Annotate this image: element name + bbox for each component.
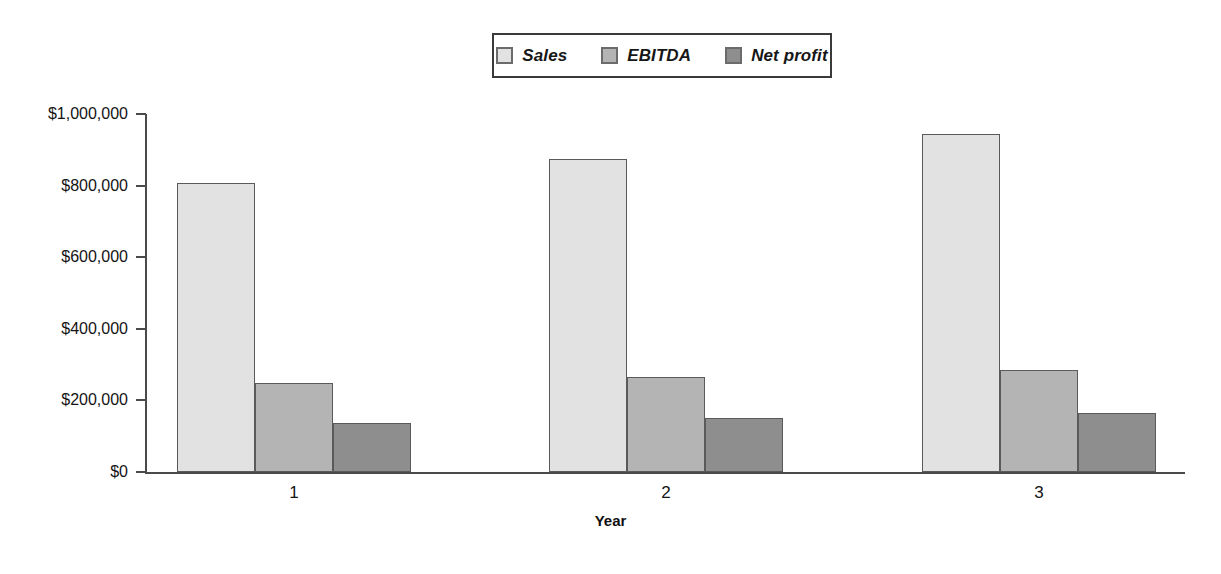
bar-net-profit-year-3[interactable] [1078,413,1156,472]
bar-net-profit-year-2[interactable] [705,418,783,472]
y-axis-tick-mark [136,256,146,258]
x-axis-title: Year [0,512,1221,529]
bar-ebitda-year-1[interactable] [255,383,333,472]
plot-area: $0$200,000$400,000$600,000$800,000$1,000… [0,0,1221,574]
x-axis-tick-label-year-1: 1 [234,483,354,503]
y-axis-tick-mark [136,399,146,401]
bar-ebitda-year-2[interactable] [627,377,705,472]
y-axis-tick-mark [136,113,146,115]
y-axis-line [145,114,147,473]
chart-figure: Sales EBITDA Net profit $0$200,000$400,0… [0,0,1221,574]
y-axis-tick-label: $1,000,000 [22,105,146,123]
bar-net-profit-year-1[interactable] [333,423,411,472]
y-axis-tick-label: $800,000 [22,177,146,195]
x-axis-tick-label-year-2: 2 [606,483,726,503]
bar-sales-year-2[interactable] [549,159,627,472]
y-axis-tick-mark [136,471,146,473]
x-axis-tick-label-year-3: 3 [979,483,1099,503]
y-axis-tick-label: $600,000 [22,248,146,266]
y-axis-tick-mark [136,185,146,187]
bar-sales-year-1[interactable] [177,183,255,472]
bar-sales-year-3[interactable] [922,134,1000,472]
x-axis-line [145,472,1185,474]
y-axis-tick-label: $400,000 [22,320,146,338]
y-axis-tick-label: $0 [22,463,146,481]
y-axis-tick-mark [136,328,146,330]
bar-ebitda-year-3[interactable] [1000,370,1078,472]
y-axis-tick-label: $200,000 [22,391,146,409]
